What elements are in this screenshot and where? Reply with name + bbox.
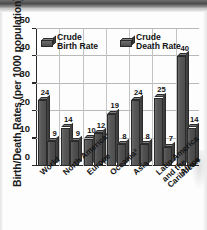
y-tick-20 <box>32 110 36 111</box>
y-tick-50 <box>32 28 36 29</box>
value-label-death-2: 12 <box>97 121 105 130</box>
cube-side-face <box>53 35 56 45</box>
gridline-y-30 <box>36 83 199 84</box>
cube-front-face <box>41 40 53 47</box>
legend-item-birth-rate: Crude Birth Rate <box>41 33 98 52</box>
legend-label: Crude Birth Rate <box>57 33 98 52</box>
y-tick-label-30: 30 <box>19 68 30 79</box>
cube-icon <box>41 38 53 47</box>
value-label-death-6: 14 <box>190 115 198 124</box>
value-label-birth-5: 25 <box>157 85 165 94</box>
plot-area: 01020304050 24914910121982482574014 Crud… <box>36 29 199 166</box>
value-label-birth-6: 40 <box>180 44 188 53</box>
y-tick-label-40: 40 <box>19 40 30 51</box>
scan-artifact-top-band-soft <box>0 9 207 12</box>
value-label-birth-4: 24 <box>134 88 142 97</box>
y-tick-40 <box>32 55 36 56</box>
scan-artifact-right-edge <box>203 12 207 230</box>
gridline-y-40 <box>36 55 199 56</box>
value-label-death-3: 8 <box>122 132 126 141</box>
bar-front-face <box>38 100 47 166</box>
cube-front-face <box>120 40 132 47</box>
y-tick-label-10: 10 <box>19 123 30 134</box>
gridline-y-50 <box>36 28 199 29</box>
value-label-birth-1: 14 <box>64 115 72 124</box>
bar-side-face <box>149 138 152 163</box>
value-label-birth-0: 24 <box>41 88 49 97</box>
value-label-birth-3: 19 <box>111 101 119 110</box>
value-label-death-0: 9 <box>52 129 56 138</box>
cube-side-face <box>132 35 135 45</box>
legend-item-death-rate: Crude Death Rate <box>120 33 181 52</box>
value-label-death-5: 7 <box>169 134 173 143</box>
value-label-death-1: 9 <box>76 129 80 138</box>
value-label-death-4: 8 <box>146 132 150 141</box>
y-tick-0 <box>32 165 36 166</box>
bar-front-face <box>61 128 70 166</box>
bar-birth-1 <box>61 128 70 166</box>
value-label-birth-2: 10 <box>87 126 95 135</box>
y-tick-label-0: 0 <box>25 150 30 161</box>
bar-birth-0 <box>38 100 47 166</box>
y-tick-30 <box>32 82 36 83</box>
cube-icon <box>120 38 132 47</box>
bar-front-face <box>154 98 163 167</box>
scan-artifact-left-edge <box>0 12 3 230</box>
y-tick-label-50: 50 <box>19 13 30 24</box>
y-tick-10 <box>32 137 36 138</box>
legend-label: Crude Death Rate <box>136 33 181 52</box>
scan-artifact-top-band <box>0 0 207 9</box>
y-tick-label-20: 20 <box>19 95 30 106</box>
chart-page: Birth/Death Rates (per 1000 population) … <box>0 0 207 230</box>
bar-birth-5 <box>154 98 163 167</box>
